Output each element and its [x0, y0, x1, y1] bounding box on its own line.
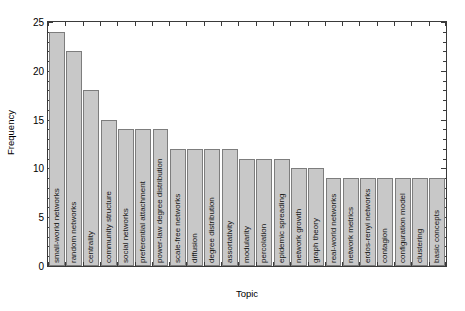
x-tick-top — [325, 22, 326, 26]
x-tick — [221, 262, 222, 266]
x-tick — [100, 262, 101, 266]
x-tick — [325, 262, 326, 266]
y-tick-right-minor — [443, 51, 446, 52]
x-tick — [238, 262, 239, 266]
bar[interactable] — [118, 129, 134, 266]
y-tick-right-minor — [443, 100, 446, 101]
bar[interactable] — [326, 178, 342, 266]
y-tick-label: 10 — [33, 163, 44, 174]
x-tick — [204, 262, 205, 266]
x-tick — [65, 262, 66, 266]
y-tick-label: 15 — [33, 114, 44, 125]
bar[interactable] — [239, 159, 255, 266]
x-tick-top — [394, 22, 395, 26]
y-tick-right-minor — [443, 139, 446, 140]
y-axis-label: Frequency — [2, 0, 18, 265]
x-tick-top — [135, 22, 136, 26]
x-tick — [308, 262, 309, 266]
y-tick-right-minor — [443, 159, 446, 160]
x-tick — [411, 262, 412, 266]
x-tick-top — [152, 22, 153, 26]
plot-inner: 0510152025small-world networksrandom net… — [48, 22, 446, 266]
bar[interactable] — [135, 129, 151, 266]
x-tick — [256, 262, 257, 266]
y-tick-major — [48, 266, 53, 267]
x-tick-top — [186, 22, 187, 26]
bar[interactable] — [256, 159, 272, 266]
x-tick — [445, 262, 446, 266]
x-tick-top — [117, 22, 118, 26]
x-tick-top — [100, 22, 101, 26]
x-tick — [394, 262, 395, 266]
y-tick-right-minor — [443, 32, 446, 33]
x-tick — [342, 262, 343, 266]
y-tick-right-major — [441, 71, 446, 72]
x-tick — [186, 262, 187, 266]
x-axis-label: Topic — [47, 288, 447, 299]
x-tick — [429, 262, 430, 266]
x-tick-top — [273, 22, 274, 26]
x-tick-top — [445, 22, 446, 26]
x-tick-top — [65, 22, 66, 26]
y-tick-right-minor — [443, 110, 446, 111]
y-tick-right-minor — [443, 42, 446, 43]
y-tick-right-minor — [443, 81, 446, 82]
x-tick — [48, 262, 49, 266]
y-tick-right-minor — [443, 90, 446, 91]
y-tick-right-minor — [443, 61, 446, 62]
y-tick-label: 20 — [33, 65, 44, 76]
bar[interactable] — [170, 149, 186, 266]
bar[interactable] — [360, 178, 376, 266]
bar[interactable] — [412, 178, 428, 266]
bar[interactable] — [222, 149, 238, 266]
y-tick-right-major — [441, 120, 446, 121]
bar[interactable] — [187, 149, 203, 266]
bar[interactable] — [101, 120, 117, 266]
x-tick-top — [204, 22, 205, 26]
bar[interactable] — [274, 159, 290, 266]
bar[interactable] — [377, 178, 393, 266]
y-axis-label-text: Frequency — [5, 110, 16, 155]
x-tick-top — [429, 22, 430, 26]
bar[interactable] — [49, 32, 65, 266]
x-tick — [83, 262, 84, 266]
bar-chart-figure: Frequency 0510152025small-world networks… — [0, 0, 465, 311]
bar[interactable] — [343, 178, 359, 266]
bar[interactable] — [308, 168, 324, 266]
bar[interactable] — [83, 90, 99, 266]
bar[interactable] — [429, 178, 445, 266]
x-tick — [117, 262, 118, 266]
bar[interactable] — [66, 51, 82, 266]
plot-area: 0510152025small-world networksrandom net… — [47, 21, 447, 267]
bar[interactable] — [153, 129, 169, 266]
bar[interactable] — [291, 168, 307, 266]
x-tick — [359, 262, 360, 266]
x-tick-top — [359, 22, 360, 26]
x-tick — [169, 262, 170, 266]
y-tick-label: 25 — [33, 17, 44, 28]
bar[interactable] — [395, 178, 411, 266]
x-tick-top — [377, 22, 378, 26]
y-tick-right-major — [441, 168, 446, 169]
x-tick — [377, 262, 378, 266]
x-tick — [290, 262, 291, 266]
x-tick-top — [256, 22, 257, 26]
x-tick-top — [342, 22, 343, 26]
y-tick-right-minor — [443, 129, 446, 130]
y-tick-right-minor — [443, 149, 446, 150]
bar[interactable] — [204, 149, 220, 266]
x-tick-top — [411, 22, 412, 26]
x-tick — [273, 262, 274, 266]
x-tick-top — [48, 22, 49, 26]
x-tick-top — [83, 22, 84, 26]
y-tick-label: 0 — [38, 261, 44, 272]
x-tick-top — [169, 22, 170, 26]
x-tick — [152, 262, 153, 266]
x-tick — [135, 262, 136, 266]
x-tick-top — [290, 22, 291, 26]
y-tick-right-major — [441, 266, 446, 267]
x-tick-top — [308, 22, 309, 26]
y-tick-label: 5 — [38, 212, 44, 223]
x-tick-top — [238, 22, 239, 26]
x-tick-top — [221, 22, 222, 26]
